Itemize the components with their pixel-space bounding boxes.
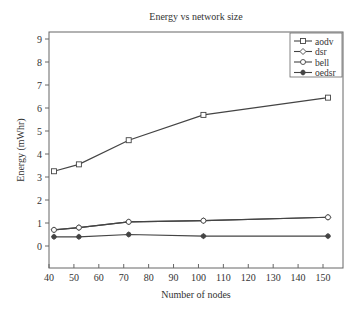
y-tick-label: 4 [37,149,42,160]
legend-label: dsr [315,47,327,57]
x-tick-label: 70 [119,272,129,283]
y-tick-label: 0 [37,241,42,252]
x-tick-label: 90 [169,272,179,283]
x-tick-label: 50 [69,272,79,283]
circle-marker-icon [51,227,56,232]
x-tick-label: 40 [44,272,54,283]
legend-label: aodv [315,37,334,47]
square-marker-icon [325,95,330,100]
series-dsr [51,214,331,233]
x-tick-label: 130 [266,272,281,283]
x-tick-label: 120 [241,272,256,283]
legend-label: oedsr [315,68,336,78]
series-group [51,95,331,240]
series-line [54,217,328,230]
x-tick-label: 150 [316,272,331,283]
series-line [54,98,328,172]
series-line [54,217,328,230]
x-tick-label: 60 [94,272,104,283]
square-marker-icon [201,112,206,117]
circle-marker-icon [126,219,131,224]
x-tick-label: 110 [216,272,231,283]
y-tick-label: 7 [37,80,42,91]
x-axis: 405060708090100110120130140150 [44,264,331,283]
series-line [54,235,328,237]
square-marker-icon [126,138,131,143]
y-tick-label: 8 [37,57,42,68]
energy-line-chart: Energy vs network size 0123456789 405060… [0,0,362,316]
series-bell [51,215,330,233]
circle-marker-icon [76,225,81,230]
y-tick-label: 3 [37,172,42,183]
legend: aodvdsrbelloedsr [290,33,342,78]
circle-marker-icon [301,60,306,65]
x-tick-label: 140 [291,272,306,283]
x-axis-label: Number of nodes [161,289,231,300]
x-tick-label: 80 [144,272,154,283]
y-axis: 0123456789 [37,34,49,252]
square-marker-icon [51,169,56,174]
circle-marker-icon [201,218,206,223]
square-marker-icon [301,39,306,44]
y-tick-label: 5 [37,126,42,137]
y-tick-label: 1 [37,218,42,229]
series-aodv [51,95,330,174]
legend-label: bell [315,58,330,68]
x-tick-label: 100 [191,272,206,283]
y-axis-label: Energy (mWhr) [15,118,27,181]
y-tick-label: 9 [37,34,42,45]
chart-title: Energy vs network size [149,11,243,22]
square-marker-icon [76,162,81,167]
y-tick-label: 2 [37,195,42,206]
y-tick-label: 6 [37,103,42,114]
circle-marker-icon [325,215,330,220]
series-oedsr [51,232,331,240]
